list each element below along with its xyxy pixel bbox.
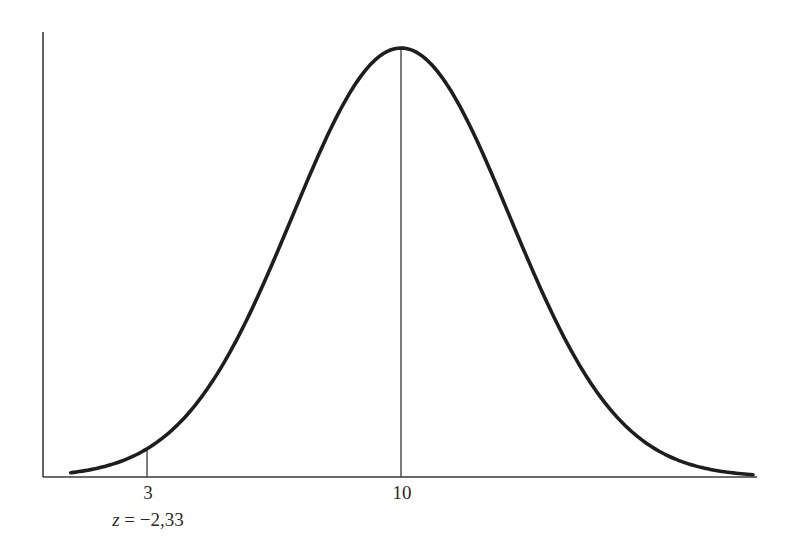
z-score-annotation: z = −2,33 bbox=[112, 509, 184, 531]
z-value: = −2,33 bbox=[120, 509, 184, 530]
normal-distribution-chart bbox=[0, 0, 790, 556]
x-tick-label-10: 10 bbox=[393, 482, 412, 504]
normal-curve bbox=[71, 48, 753, 475]
x-tick-label-3: 3 bbox=[143, 482, 153, 504]
